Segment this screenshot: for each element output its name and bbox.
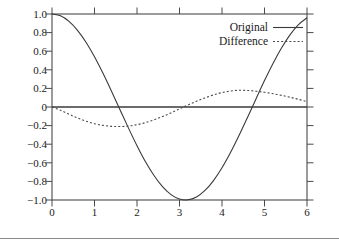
y-tick-label: −0.2: [27, 119, 47, 131]
x-tick-label: 1: [92, 206, 98, 218]
x-tick-label: 3: [177, 206, 183, 218]
x-axis-tick-labels: 0123456: [49, 206, 310, 218]
y-tick-label: 0.4: [33, 64, 47, 76]
y-tick-label: −1.0: [27, 194, 47, 206]
x-tick-label: 4: [219, 206, 225, 218]
y-tick-label: 1.0: [33, 8, 47, 20]
y-tick-label: −0.4: [27, 138, 47, 150]
figure-container: 1.00.80.60.40.20−0.2−0.4−0.6−0.8−1.0 012…: [0, 0, 339, 249]
x-tick-label: 6: [304, 206, 310, 218]
y-tick-label: 0.6: [33, 45, 47, 57]
y-tick-label: −0.8: [27, 175, 47, 187]
x-tick-label: 0: [49, 206, 55, 218]
chart-canvas: 1.00.80.60.40.20−0.2−0.4−0.6−0.8−1.0 012…: [0, 0, 339, 249]
legend-label-original: Original: [230, 21, 268, 34]
y-tick-label: 0.2: [33, 82, 47, 94]
y-tick-label: 0.8: [33, 26, 47, 38]
legend-label-difference: Difference: [219, 35, 268, 47]
y-axis-tick-labels: 1.00.80.60.40.20−0.2−0.4−0.6−0.8−1.0: [27, 8, 47, 206]
x-tick-label: 5: [262, 206, 268, 218]
x-tick-label: 2: [134, 206, 140, 218]
y-tick-label: −0.6: [27, 157, 47, 169]
page-separator-rule: [0, 238, 339, 239]
series-line-difference: [52, 90, 307, 126]
